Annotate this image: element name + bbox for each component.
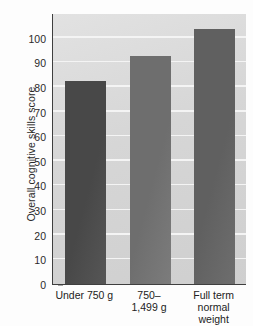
bar-2 xyxy=(130,56,171,284)
y-tick-label: 40 xyxy=(12,180,46,192)
bar-chart-figure: Overall cognitive skills score 010203040… xyxy=(0,0,253,326)
y-tick-label: 80 xyxy=(12,82,46,94)
x-tick-label: Full term normal weight xyxy=(175,289,252,326)
y-tick-label: 50 xyxy=(12,156,46,168)
bar-1 xyxy=(65,81,106,284)
y-axis-tick-labels: 0102030405060708090100 xyxy=(12,14,46,285)
y-tick-label: 30 xyxy=(12,205,46,217)
y-tick-label: 10 xyxy=(12,254,46,266)
y-tick-label: 100 xyxy=(12,33,46,45)
y-tick-label: 20 xyxy=(12,230,46,242)
y-tick-label: 0 xyxy=(12,279,46,291)
bar-3 xyxy=(194,29,235,284)
y-tick-label: 60 xyxy=(12,131,46,143)
y-tick-label: 70 xyxy=(12,107,46,119)
plot-area xyxy=(52,14,246,285)
x-axis-tick-labels: Under 750 g750– 1,499 gFull term normal … xyxy=(52,289,246,326)
y-tick-label: 90 xyxy=(12,57,46,69)
